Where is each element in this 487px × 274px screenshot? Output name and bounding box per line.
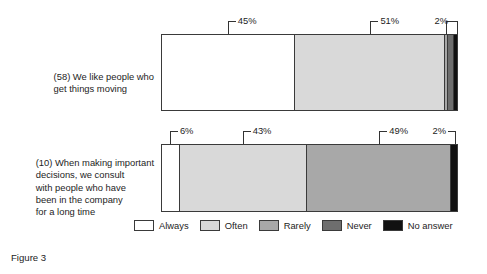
row-label-item-58: (58) We like people who get things movin… xyxy=(8,59,154,96)
legend-label: No answer xyxy=(408,220,453,231)
value-callout: 43% xyxy=(243,124,244,144)
legend-swatch-icon xyxy=(200,220,220,231)
legend-item-always[interactable]: Always xyxy=(134,220,189,231)
legend-swatch-icon xyxy=(383,220,403,231)
legend-label: Often xyxy=(225,220,248,231)
chart-legend: AlwaysOftenRarelyNeverNo answer xyxy=(134,220,453,231)
legend-swatch-icon xyxy=(134,220,154,231)
value-callout: 49% xyxy=(379,124,380,144)
bar-segment-often xyxy=(295,35,445,110)
legend-swatch-icon xyxy=(322,220,342,231)
legend-item-no-answer[interactable]: No answer xyxy=(383,220,453,231)
bar-segment-no-answer xyxy=(451,145,457,211)
row-label-text: (58) We like people who get things movin… xyxy=(54,71,154,95)
bar-segment-always xyxy=(162,35,295,110)
legend-label: Always xyxy=(159,220,189,231)
stacked-bar-item-58 xyxy=(161,34,458,111)
bar-segment-always xyxy=(162,145,180,211)
value-callout: 2% xyxy=(446,14,458,34)
stacked-bar-item-10 xyxy=(161,144,458,212)
callout-value: 51% xyxy=(380,16,399,26)
value-callout: 2% xyxy=(455,124,456,144)
callout-group-row-1: 45%51%2% xyxy=(0,14,487,34)
legend-item-rarely[interactable]: Rarely xyxy=(259,220,311,231)
legend-swatch-icon xyxy=(259,220,279,231)
callout-value: 6% xyxy=(180,126,194,136)
figure-3: 45%51%2% (58) We like people who get thi… xyxy=(0,0,487,274)
bar-segment-rarely xyxy=(307,145,452,211)
callout-value: 43% xyxy=(253,126,272,136)
callout-value: 45% xyxy=(238,16,257,26)
value-callout: 45% xyxy=(228,14,229,34)
callout-value: 2% xyxy=(434,16,448,26)
value-callout: 51% xyxy=(370,14,371,34)
callout-group-row-2: 6%43%49%2% xyxy=(0,124,487,144)
figure-caption: Figure 3 xyxy=(11,252,46,264)
callout-value: 49% xyxy=(389,126,408,136)
callout-value: 2% xyxy=(432,126,446,136)
row-label-text: (10) When making important decisions, we… xyxy=(36,157,154,218)
value-callout: 6% xyxy=(170,124,171,144)
legend-item-often[interactable]: Often xyxy=(200,220,248,231)
legend-label: Never xyxy=(347,220,372,231)
legend-item-never[interactable]: Never xyxy=(322,220,372,231)
row-label-item-10: (10) When making important decisions, we… xyxy=(8,145,154,218)
bar-segment-no-answer xyxy=(454,35,457,110)
bar-segment-often xyxy=(180,145,307,211)
legend-label: Rarely xyxy=(284,220,311,231)
